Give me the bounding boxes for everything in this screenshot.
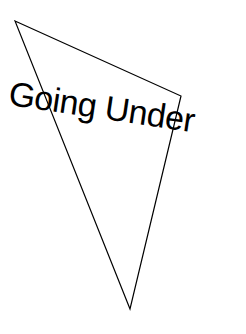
triangle-drawing — [0, 0, 246, 334]
triangle-outline — [15, 21, 181, 309]
